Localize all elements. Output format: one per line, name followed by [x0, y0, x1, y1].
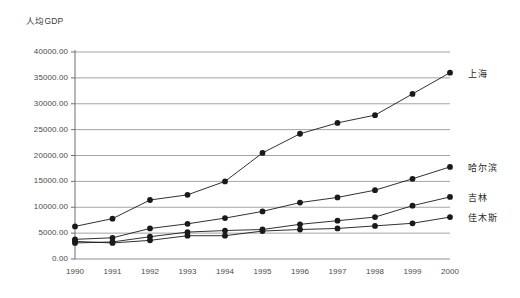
series-marker: [185, 233, 191, 239]
series-marker: [222, 215, 228, 221]
x-axis-tick-label: 1996: [280, 267, 320, 276]
series-marker: [185, 221, 191, 227]
x-axis-tick-label: 1990: [55, 267, 95, 276]
series-marker: [147, 237, 153, 243]
series-label-0: 上海: [468, 67, 488, 80]
series-marker: [372, 223, 378, 229]
series-marker: [147, 197, 153, 203]
series-label-1: 哈尔滨: [468, 161, 499, 174]
series-marker: [297, 227, 303, 233]
series-marker: [72, 239, 78, 245]
series-marker: [447, 194, 453, 200]
y-axis-tick-label: 5000.00: [10, 228, 68, 237]
series-marker: [147, 226, 153, 232]
series-marker: [297, 221, 303, 227]
series-marker: [372, 187, 378, 193]
y-axis-tick-label: 20000.00: [10, 151, 68, 160]
x-axis-tick-label: 1998: [355, 267, 395, 276]
y-axis-tick-label: 25000.00: [10, 125, 68, 134]
series-marker: [222, 233, 228, 239]
series-marker: [110, 216, 116, 222]
series-marker: [110, 240, 116, 246]
series-marker: [447, 214, 453, 220]
series-marker: [335, 120, 341, 126]
x-axis-tick-label: 2000: [430, 267, 470, 276]
y-axis-tick-label: 10000.00: [10, 202, 68, 211]
y-axis-tick-label: 40000.00: [10, 47, 68, 56]
series-marker: [372, 112, 378, 118]
series-marker: [335, 195, 341, 201]
y-axis-tick-label: 30000.00: [10, 99, 68, 108]
x-axis-tick-label: 1992: [130, 267, 170, 276]
series-marker: [260, 150, 266, 156]
chart-plot-svg: [0, 0, 520, 298]
series-marker: [297, 200, 303, 206]
series-marker: [335, 218, 341, 224]
series-label-2: 吉林: [468, 191, 488, 204]
x-axis-tick-label: 1999: [393, 267, 433, 276]
series-marker: [410, 176, 416, 182]
series-marker: [260, 208, 266, 214]
x-axis-tick-label: 1995: [243, 267, 283, 276]
series-line-2: [75, 197, 450, 243]
x-axis-tick-label: 1997: [318, 267, 358, 276]
y-axis-tick-label: 0.00: [10, 254, 68, 263]
series-marker: [447, 70, 453, 76]
chart-canvas: 人均GDP 0.005000.0010000.0015000.0020000.0…: [0, 0, 520, 298]
x-axis-tick-label: 1993: [168, 267, 208, 276]
series-marker: [410, 203, 416, 209]
series-label-3: 佳木斯: [468, 211, 499, 224]
series-marker: [222, 178, 228, 184]
series-marker: [447, 164, 453, 170]
series-marker: [185, 192, 191, 198]
series-marker: [260, 228, 266, 234]
series-marker: [297, 131, 303, 137]
y-axis-tick-label: 15000.00: [10, 176, 68, 185]
y-axis-tick-label: 35000.00: [10, 73, 68, 82]
series-marker: [335, 226, 341, 232]
series-marker: [72, 223, 78, 229]
series-marker: [410, 91, 416, 97]
series-marker: [372, 214, 378, 220]
series-marker: [410, 220, 416, 226]
series-marker: [222, 228, 228, 234]
x-axis-tick-label: 1991: [93, 267, 133, 276]
x-axis-tick-label: 1994: [205, 267, 245, 276]
series-line-0: [75, 73, 450, 227]
